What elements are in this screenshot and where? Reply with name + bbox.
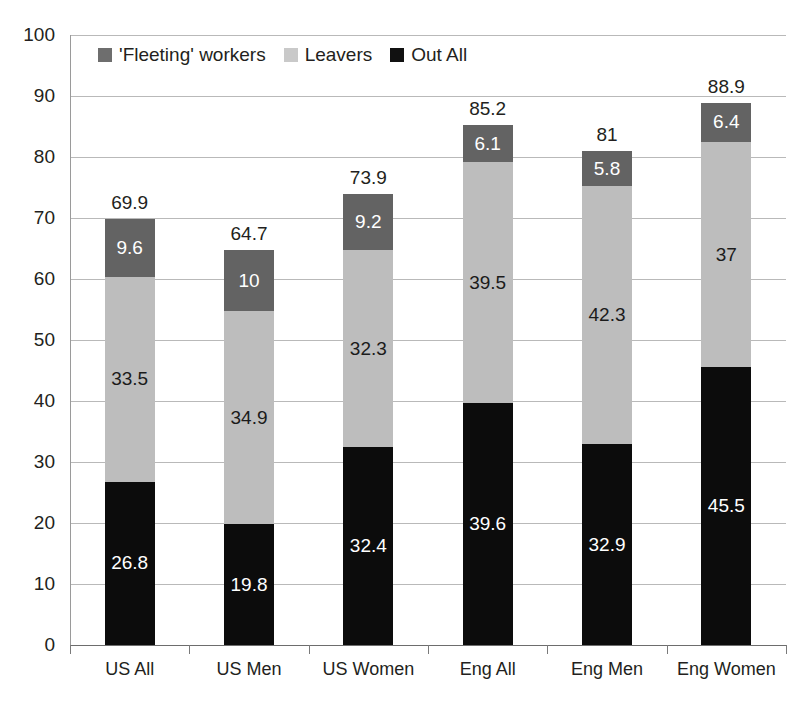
y-axis-tick-label: 0 (0, 635, 55, 654)
bar-eng-all: 39.639.56.1 (463, 35, 513, 645)
gridline (70, 401, 786, 402)
legend-label: 'Fleeting' workers (119, 45, 266, 65)
segment-value-label: 45.5 (708, 495, 745, 517)
gridline (70, 340, 786, 341)
segment-value-label: 9.2 (355, 211, 381, 233)
gridline (70, 218, 786, 219)
bar-segment-out: 26.8 (105, 482, 155, 645)
bar-segment-fleet: 9.6 (105, 219, 155, 278)
y-axis-tick-label: 70 (0, 208, 55, 227)
segment-value-label: 39.6 (469, 513, 506, 535)
x-axis-tick (547, 645, 548, 654)
y-axis-tick-label: 10 (0, 574, 55, 593)
segment-value-label: 32.9 (589, 534, 626, 556)
segment-value-label: 6.4 (713, 111, 739, 133)
x-axis-tick (786, 645, 787, 654)
legend-item: Out All (390, 45, 467, 65)
bar-total-label: 85.2 (428, 99, 548, 119)
legend-swatch-leaver-icon (284, 48, 298, 62)
y-axis-tick-label: 60 (0, 269, 55, 288)
bar-segment-out: 32.4 (343, 447, 393, 645)
bar-segment-out: 45.5 (701, 367, 751, 645)
bar-total-label: 69.9 (70, 193, 190, 213)
bar-segment-leaver: 42.3 (582, 186, 632, 444)
segment-value-label: 42.3 (589, 304, 626, 326)
bar-segment-leaver: 39.5 (463, 162, 513, 403)
bar-segment-fleet: 6.4 (701, 103, 751, 142)
segment-value-label: 9.6 (116, 237, 142, 259)
segment-value-label: 32.3 (350, 338, 387, 360)
x-axis-tick (428, 645, 429, 654)
bar-total-label: 88.9 (666, 77, 786, 97)
y-axis-tick-label: 90 (0, 86, 55, 105)
segment-value-label: 33.5 (111, 368, 148, 390)
y-axis-tick-label: 20 (0, 513, 55, 532)
bar-us-men: 19.834.910 (224, 35, 274, 645)
bar-segment-out: 32.9 (582, 444, 632, 645)
bar-segment-out: 39.6 (463, 403, 513, 645)
segment-value-label: 6.1 (474, 133, 500, 155)
bar-eng-women: 45.5376.4 (701, 35, 751, 645)
bar-segment-leaver: 33.5 (105, 277, 155, 481)
y-axis-line (70, 35, 71, 645)
chart-legend: 'Fleeting' workersLeaversOut All (98, 45, 467, 65)
bar-segment-fleet: 10 (224, 250, 274, 311)
segment-value-label: 26.8 (111, 552, 148, 574)
bar-segment-fleet: 5.8 (582, 151, 632, 186)
gridline (70, 584, 786, 585)
segment-value-label: 39.5 (469, 272, 506, 294)
legend-label: Leavers (305, 45, 373, 65)
legend-label: Out All (411, 45, 467, 65)
bar-segment-fleet: 6.1 (463, 125, 513, 162)
gridline (70, 35, 786, 36)
legend-item: 'Fleeting' workers (98, 45, 266, 65)
segment-value-label: 10 (238, 270, 259, 292)
bar-total-label: 64.7 (189, 224, 309, 244)
legend-item: Leavers (284, 45, 373, 65)
segment-value-label: 32.4 (350, 535, 387, 557)
segment-value-label: 34.9 (231, 407, 268, 429)
bar-segment-leaver: 32.3 (343, 250, 393, 447)
bar-segment-leaver: 34.9 (224, 311, 274, 524)
segment-value-label: 5.8 (594, 158, 620, 180)
gridline (70, 157, 786, 158)
bar-segment-fleet: 9.2 (343, 194, 393, 250)
x-axis-tick (309, 645, 310, 654)
segment-value-label: 19.8 (231, 574, 268, 596)
bar-us-all: 26.833.59.6 (105, 35, 155, 645)
bar-segment-leaver: 37 (701, 142, 751, 368)
gridline (70, 462, 786, 463)
legend-swatch-out-icon (390, 48, 404, 62)
gridline (70, 279, 786, 280)
x-axis-tick (189, 645, 190, 654)
y-axis-tick-label: 30 (0, 452, 55, 471)
x-axis-tick (667, 645, 668, 654)
bar-us-women: 32.432.39.2 (343, 35, 393, 645)
y-axis-tick-label: 100 (0, 25, 55, 44)
y-axis-tick-label: 40 (0, 391, 55, 410)
stacked-bar-chart: 1009080706050403020100 26.833.59.669.919… (0, 0, 802, 703)
bar-total-label: 81 (547, 125, 667, 145)
segment-value-label: 37 (716, 244, 737, 266)
legend-swatch-fleet-icon (98, 48, 112, 62)
bar-total-label: 73.9 (308, 168, 428, 188)
x-axis-label-eng-women: Eng Women (656, 658, 796, 680)
bar-segment-out: 19.8 (224, 524, 274, 645)
y-axis-tick-label: 80 (0, 147, 55, 166)
x-axis-tick (70, 645, 71, 654)
gridline (70, 523, 786, 524)
y-axis-tick-label: 50 (0, 330, 55, 349)
